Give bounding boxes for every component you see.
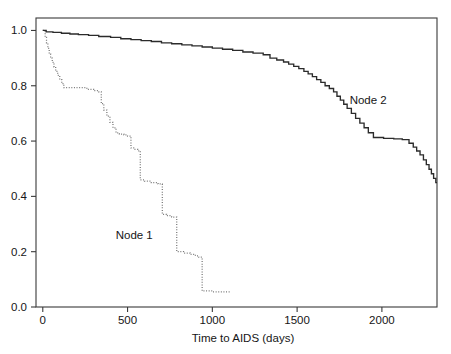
y-tick-label: 0.0	[11, 301, 27, 313]
series-annotations: Node 1Node 2	[116, 94, 387, 242]
annotation-label-node-2: Node 2	[350, 94, 387, 106]
kaplan-meier-chart: 0.00.20.40.60.81.00500100015002000 Node …	[0, 0, 451, 354]
series-line-node-2	[43, 30, 437, 182]
plot-border	[36, 18, 437, 307]
y-tick-label: 0.6	[11, 135, 27, 147]
y-tick-label: 0.4	[11, 190, 28, 202]
y-tick-label: 0.8	[11, 80, 27, 92]
series-lines	[43, 30, 437, 291]
x-tick-label: 500	[118, 314, 137, 326]
series-line-node-1	[43, 30, 231, 291]
x-tick-label: 0	[40, 314, 46, 326]
y-tick-label: 0.2	[11, 246, 27, 258]
x-tick-label: 1500	[284, 314, 310, 326]
axis-ticks: 0.00.20.40.60.81.00500100015002000	[11, 24, 395, 326]
x-axis-title: Time to AIDS (days)	[192, 332, 295, 344]
annotation-label-node-1: Node 1	[116, 229, 153, 241]
y-tick-label: 1.0	[11, 24, 27, 36]
survival-curve-figure: 0.00.20.40.60.81.00500100015002000 Node …	[0, 0, 451, 354]
x-tick-label: 1000	[200, 314, 226, 326]
x-tick-label: 2000	[369, 314, 395, 326]
plot-frame	[36, 18, 437, 307]
